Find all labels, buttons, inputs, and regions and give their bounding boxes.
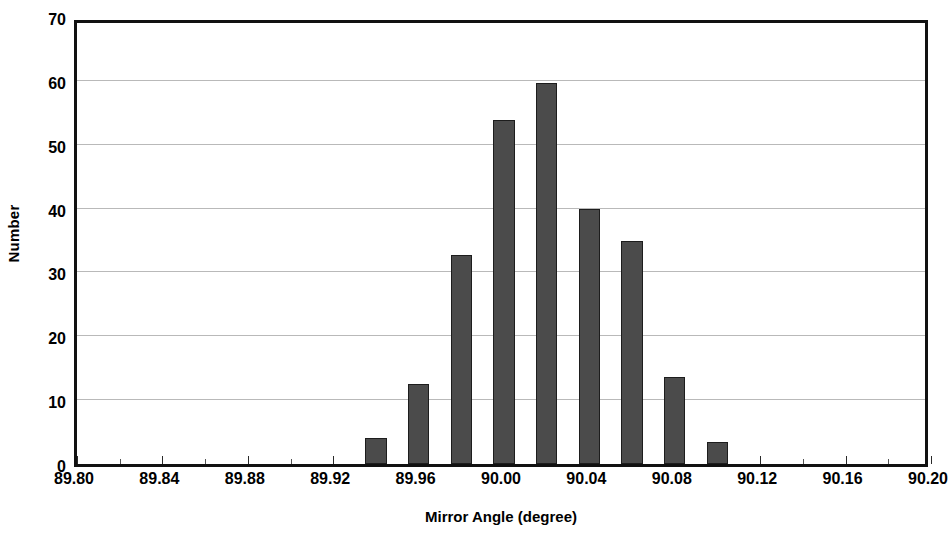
- y-tick-label: 50: [48, 139, 66, 157]
- x-tick-label: 89.92: [310, 470, 350, 488]
- y-tick-label: 10: [48, 394, 66, 412]
- x-tick-label: 89.84: [139, 470, 179, 488]
- y-tick-label: 70: [48, 11, 66, 29]
- y-axis-title: Number: [0, 0, 28, 467]
- x-tick-label: 90.08: [652, 470, 692, 488]
- bar: [664, 377, 685, 464]
- x-tick-label: 90.16: [823, 470, 863, 488]
- x-tick-label: 90.04: [566, 470, 606, 488]
- plot-area: [74, 20, 928, 467]
- bar: [579, 209, 600, 464]
- bar: [451, 255, 472, 464]
- y-axis-title-text: Number: [6, 205, 23, 263]
- x-axis-tick-labels: 89.8089.8489.8889.9289.9690.0090.0490.08…: [74, 470, 928, 496]
- x-tick-mark: [931, 456, 932, 464]
- y-tick-label: 30: [48, 266, 66, 284]
- y-tick-label: 20: [48, 330, 66, 348]
- x-tick-label: 90.12: [737, 470, 777, 488]
- bar: [493, 120, 514, 464]
- x-axis-title: Mirror Angle (degree): [74, 508, 928, 525]
- x-tick-label: 90.00: [481, 470, 521, 488]
- y-tick-label: 60: [48, 75, 66, 93]
- bar: [707, 442, 728, 464]
- bar-series: [77, 23, 925, 464]
- x-tick-label: 89.80: [54, 470, 94, 488]
- bar: [536, 83, 557, 464]
- y-axis-tick-labels: 010203040506070: [26, 0, 70, 487]
- bar: [365, 438, 386, 464]
- bar: [621, 241, 642, 465]
- bar: [408, 384, 429, 464]
- x-tick-label: 89.88: [225, 470, 265, 488]
- x-tick-label: 90.20: [908, 470, 948, 488]
- x-tick-label: 89.96: [396, 470, 436, 488]
- y-tick-label: 40: [48, 203, 66, 221]
